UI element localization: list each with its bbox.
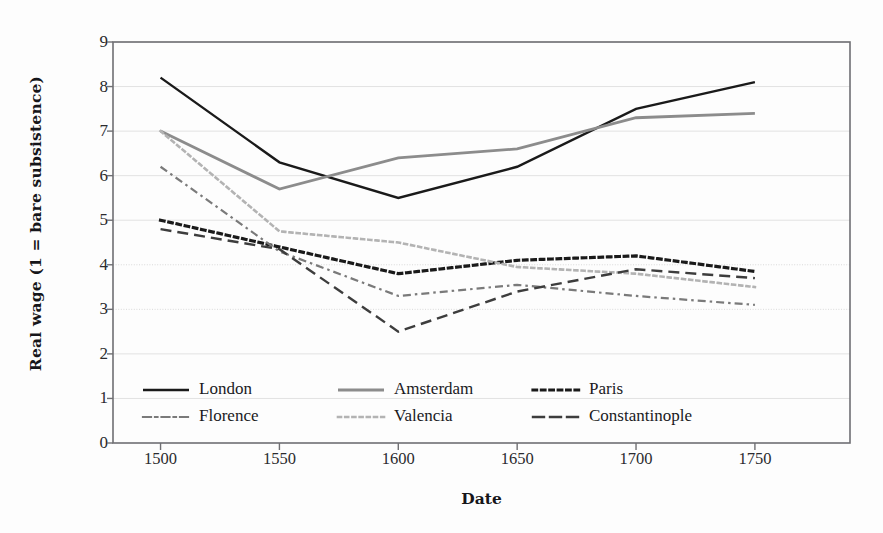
series-line-london [161, 78, 755, 198]
x-tick-label: 1600 [363, 449, 433, 469]
gridlines [113, 42, 850, 398]
series-line-constantinople [161, 229, 755, 331]
legend-swatches [143, 390, 579, 417]
x-tick-label: 1650 [482, 449, 552, 469]
plot-frame [113, 42, 850, 443]
x-tick-label: 1750 [720, 449, 790, 469]
series-line-florence [161, 167, 755, 305]
series-line-amsterdam [161, 113, 755, 189]
x-axis-label: Date [113, 489, 850, 508]
x-tick-label: 1550 [244, 449, 314, 469]
chart-figure: Real wage (1 = bare subsistence) 0123456… [0, 0, 883, 533]
x-tick-label: 1500 [126, 449, 196, 469]
y-axis-tick-marks [107, 42, 113, 443]
x-tick-label: 1700 [601, 449, 671, 469]
series-line-paris [161, 220, 755, 273]
data-series-group [161, 78, 755, 332]
